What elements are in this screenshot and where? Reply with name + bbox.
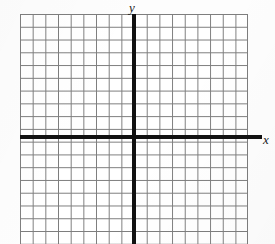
coordinate-grid-figure: y x	[0, 0, 275, 244]
x-axis-line	[20, 135, 262, 139]
x-axis-label: x	[263, 133, 269, 146]
y-axis-label: y	[129, 1, 135, 14]
grid-right-border	[247, 14, 248, 244]
y-axis-line	[132, 14, 136, 244]
